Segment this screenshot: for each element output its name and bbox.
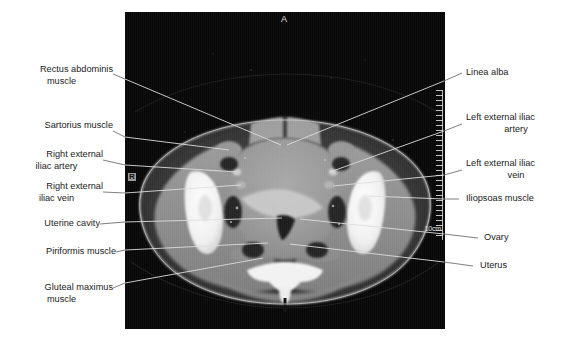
label-left-external-iliac-vein: Left external iliac vein xyxy=(466,158,566,181)
label-line-2: muscle xyxy=(10,76,113,88)
marker-anterior: A xyxy=(281,15,287,24)
label-right-external-iliac-artery: Right external iliac artery xyxy=(10,149,103,172)
label-line-1: Uterine cavity xyxy=(44,218,100,228)
label-line-1: Left external iliac xyxy=(466,158,535,168)
marker-right: R xyxy=(128,173,136,181)
label-line-2: muscle xyxy=(10,294,113,306)
ct-scan-image: A R 10cm xyxy=(125,12,445,329)
label-piriformis-muscle: Piriformis muscle xyxy=(10,246,116,258)
label-right-external-iliac-vein: Right external iliac vein xyxy=(10,181,103,204)
label-line-1: Iliopsoas muscle xyxy=(466,193,534,203)
label-line-1: Rectus abdominis xyxy=(40,64,113,74)
label-line-1: Left external iliac xyxy=(466,112,535,122)
label-line-1: Ovary xyxy=(484,232,509,242)
label-ovary: Ovary xyxy=(484,232,554,244)
label-line-1: Right external xyxy=(46,149,103,159)
label-line-1: Uterus xyxy=(480,260,507,270)
label-line-1: Right external xyxy=(46,181,103,191)
pelvic-ct-figure: A R 10cm xyxy=(0,0,569,344)
label-rectus-abdominis-muscle: Rectus abdominis muscle xyxy=(10,64,113,87)
label-uterus: Uterus xyxy=(480,260,550,272)
label-line-2: artery xyxy=(466,124,566,136)
label-uterine-cavity: Uterine cavity xyxy=(10,218,100,230)
label-iliopsoas-muscle: Iliopsoas muscle xyxy=(466,193,566,205)
scale-ruler xyxy=(436,90,443,240)
label-line-1: Linea alba xyxy=(466,67,508,77)
label-line-1: Piriformis muscle xyxy=(46,246,116,256)
label-linea-alba: Linea alba xyxy=(466,67,564,79)
label-sartorius-muscle: Sartorius muscle xyxy=(10,120,113,132)
label-line-1: Sartorius muscle xyxy=(45,120,113,130)
label-gluteal-maximus-muscle: Gluteal maximus muscle xyxy=(10,282,113,305)
label-left-external-iliac-artery: Left external iliac artery xyxy=(466,112,566,135)
label-line-2: iliac artery xyxy=(10,161,103,173)
label-line-2: vein xyxy=(466,170,566,182)
label-line-2: iliac vein xyxy=(10,193,103,205)
label-line-1: Gluteal maximus xyxy=(45,282,113,292)
ct-anatomy-render xyxy=(125,12,445,329)
